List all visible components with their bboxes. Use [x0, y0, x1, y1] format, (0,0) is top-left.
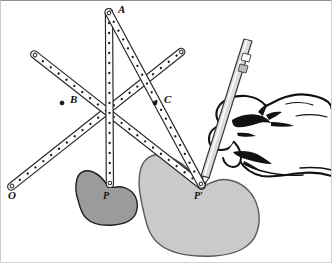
label-P-prime: P′ [194, 191, 203, 201]
bar-A-to-P [105, 8, 113, 187]
pivot-C [153, 101, 157, 105]
label-O: O [8, 190, 16, 201]
pantograph-figure: O A B C P P′ [0, 0, 332, 263]
pantograph-illustration [0, 0, 332, 263]
pivot-B [60, 101, 64, 105]
label-C: C [164, 94, 171, 105]
label-B: B [70, 94, 77, 105]
label-A: A [118, 4, 125, 15]
label-P: P [103, 191, 109, 201]
